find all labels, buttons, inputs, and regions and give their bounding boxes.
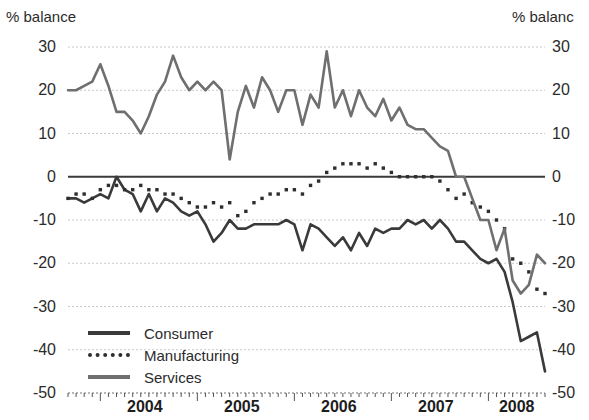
data-point <box>123 188 126 191</box>
data-point <box>398 175 401 178</box>
data-point <box>438 179 441 182</box>
data-point <box>301 192 304 195</box>
legend-item-manufacturing: Manufacturing <box>88 344 298 366</box>
legend-label-services: Services <box>144 369 202 386</box>
data-point <box>519 262 522 265</box>
data-point <box>325 171 328 174</box>
data-point <box>333 166 336 169</box>
data-point <box>82 192 85 195</box>
chart-container: % balance % balanc 30302020101000-10-10-… <box>0 0 589 420</box>
data-point <box>260 197 263 200</box>
data-point <box>414 175 417 178</box>
legend-label-manufacturing: Manufacturing <box>144 347 239 364</box>
data-point <box>74 192 77 195</box>
data-point <box>454 197 457 200</box>
legend-item-services: Services <box>88 366 298 388</box>
data-point <box>188 201 191 204</box>
data-point <box>163 192 166 195</box>
data-point <box>374 162 377 165</box>
series-manufacturing <box>66 162 546 295</box>
data-point <box>212 201 215 204</box>
data-point <box>204 205 207 208</box>
data-point <box>155 188 158 191</box>
data-point <box>268 192 271 195</box>
data-point <box>462 192 465 195</box>
legend-swatch-consumer-icon <box>88 331 130 335</box>
data-point <box>196 205 199 208</box>
data-point <box>479 205 482 208</box>
data-point <box>99 188 102 191</box>
data-point <box>527 270 530 273</box>
data-point <box>406 175 409 178</box>
data-point <box>487 210 490 213</box>
data-point <box>252 201 255 204</box>
legend-item-consumer: Consumer <box>88 322 298 344</box>
data-point <box>309 184 312 187</box>
data-point <box>131 188 134 191</box>
data-point <box>495 218 498 221</box>
data-point <box>511 257 514 260</box>
data-point <box>543 292 546 295</box>
data-point <box>107 184 110 187</box>
data-point <box>341 162 344 165</box>
data-point <box>293 188 296 191</box>
data-point <box>357 162 360 165</box>
data-point <box>430 175 433 178</box>
data-point <box>244 210 247 213</box>
data-point <box>179 197 182 200</box>
series-services <box>68 51 545 293</box>
data-point <box>285 188 288 191</box>
data-point <box>171 192 174 195</box>
data-point <box>365 166 368 169</box>
data-point <box>317 179 320 182</box>
data-point <box>220 205 223 208</box>
data-point <box>422 175 425 178</box>
data-point <box>147 188 150 191</box>
data-point <box>535 288 538 291</box>
data-point <box>236 214 239 217</box>
legend-label-consumer: Consumer <box>144 325 213 342</box>
data-point <box>139 184 142 187</box>
data-point <box>228 201 231 204</box>
data-point <box>349 162 352 165</box>
data-point <box>115 184 118 187</box>
data-point <box>66 197 69 200</box>
legend-swatch-services-icon <box>88 375 130 379</box>
data-point <box>382 166 385 169</box>
chart-legend: Consumer Manufacturing Services <box>88 322 298 388</box>
data-point <box>277 192 280 195</box>
data-point <box>446 188 449 191</box>
data-point <box>91 197 94 200</box>
legend-swatch-manufacturing-icon <box>88 353 130 357</box>
data-point <box>390 171 393 174</box>
